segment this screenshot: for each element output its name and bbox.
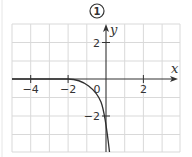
x-ticks: −4 −2 2 0 xyxy=(23,75,147,96)
y-tick-label: 2 xyxy=(93,37,100,50)
svg-text:x: x xyxy=(171,61,179,76)
svg-text:1: 1 xyxy=(94,6,101,17)
x-tick-label: −4 xyxy=(23,83,39,96)
x-tick-label: 2 xyxy=(140,83,147,96)
figure-number-badge: 1 xyxy=(90,4,104,18)
svg-text:y: y xyxy=(109,22,118,37)
y-axis: y xyxy=(103,22,118,152)
function-graph: 1 x y −4 −2 2 0 xyxy=(0,0,192,157)
x-tick-label: −2 xyxy=(60,83,76,96)
y-tick-label: −2 xyxy=(84,110,100,123)
